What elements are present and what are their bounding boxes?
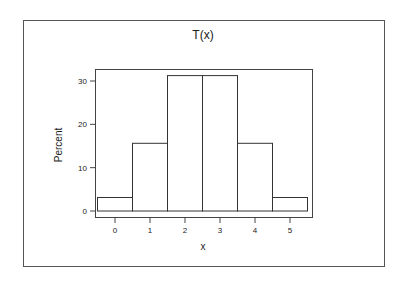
histogram-chart: T(x) 0102030 012345 x Percent	[0, 0, 405, 283]
histogram-bar	[133, 143, 168, 211]
y-tick-label: 0	[83, 207, 88, 216]
x-tick-label: 0	[113, 226, 118, 235]
y-tick-label: 10	[78, 164, 87, 173]
x-tick-label: 1	[148, 226, 153, 235]
histogram-bar	[98, 198, 133, 212]
x-tick-label: 2	[183, 226, 188, 235]
chart-title: T(x)	[192, 28, 213, 42]
x-axis-label: x	[201, 241, 206, 252]
x-tick-label: 4	[253, 226, 258, 235]
y-tick-label: 30	[78, 77, 87, 86]
histogram-bar	[203, 76, 238, 211]
histogram-bar	[238, 143, 273, 211]
histogram-bar	[273, 198, 308, 212]
y-tick-label: 20	[78, 120, 87, 129]
y-axis-label: Percent	[53, 128, 64, 163]
x-tick-label: 3	[218, 226, 223, 235]
histogram-bar	[168, 76, 203, 211]
x-tick-label: 5	[288, 226, 293, 235]
